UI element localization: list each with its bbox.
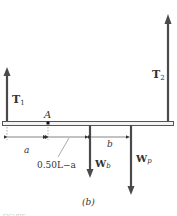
point-a-marker	[47, 122, 50, 125]
t1-force-arrow	[4, 67, 11, 121]
dimension-mid-label: 0.50L−a	[37, 160, 77, 170]
dimension-mid	[49, 137, 89, 157]
wb-label: Wb	[94, 158, 111, 170]
wp-label: Wp	[135, 153, 152, 165]
t2-force-arrow	[165, 14, 172, 121]
dimension-b-label: b	[107, 139, 113, 149]
figure-footer: FIGURE	[3, 213, 26, 216]
dimension-a-label: a	[24, 145, 29, 155]
t1-label: T1	[12, 93, 25, 107]
wb-force-arrow	[87, 125, 94, 178]
free-body-diagram: T1 T2 A Wb Wp a 0.50L−a b (b) FIGURE	[0, 0, 177, 216]
figure-caption: (b)	[82, 197, 95, 207]
wp-force-arrow	[128, 125, 135, 195]
t2-label: T2	[152, 68, 165, 82]
diagram-canvas: T1 T2 A Wb Wp a 0.50L−a b (b) FIGURE	[0, 0, 177, 216]
beam	[3, 122, 174, 126]
point-a-label: A	[43, 109, 51, 120]
